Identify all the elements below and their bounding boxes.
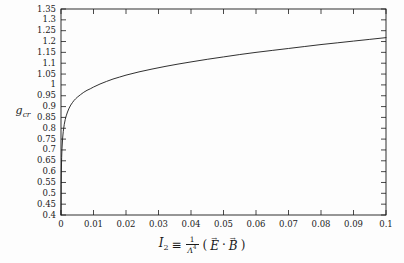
plot-frame	[61, 9, 386, 215]
x-axis-label-close-paren: )	[241, 239, 246, 251]
x-tick-label: 0	[43, 219, 79, 229]
y-tick-label: 1.2	[22, 36, 56, 46]
x-tick-label: 0.06	[238, 219, 274, 229]
fraction-denominator: Λ4	[186, 244, 199, 254]
x-tick-label: 0.04	[173, 219, 209, 229]
y-axis-label: gcr	[6, 104, 40, 119]
e-field-vector: →E	[210, 238, 219, 252]
y-tick-label: 0.45	[22, 199, 56, 209]
y-tick-label: 0.4	[22, 210, 56, 220]
x-axis-label-fraction: 1 Λ4	[186, 236, 199, 254]
x-tick-label: 0.08	[303, 219, 339, 229]
y-tick-label: 0.8	[22, 123, 56, 133]
x-tick-label: 0.09	[336, 219, 372, 229]
chart-figure: 0.40.450.50.550.60.650.70.750.80.850.90.…	[0, 0, 404, 263]
y-tick-label: 0.75	[22, 134, 56, 144]
vector-arrow-e-icon: →	[210, 237, 218, 241]
y-tick-label: 0.5	[22, 188, 56, 198]
x-axis-label-open-paren: (	[203, 239, 208, 251]
y-tick-label: 1.35	[22, 4, 56, 14]
x-tick-label: 0.1	[368, 219, 404, 229]
x-axis-label-symbol: I2	[159, 237, 169, 252]
y-axis-label-subscript: cr	[23, 110, 31, 119]
x-axis-label: I2 ≡ 1 Λ4 ( →E · →B )	[0, 236, 404, 254]
y-tick-label: 0.6	[22, 166, 56, 176]
x-tick-label: 0.05	[206, 219, 242, 229]
vector-arrow-b-icon: →	[229, 237, 237, 241]
x-axis-label-equiv-sign: ≡	[172, 239, 182, 251]
b-field-vector: →B	[229, 238, 238, 252]
y-axis-label-symbol: g	[16, 104, 23, 117]
y-tick-label: 0.55	[22, 177, 56, 187]
x-tick-label: 0.07	[271, 219, 307, 229]
fraction-numerator: 1	[188, 236, 197, 244]
y-tick-label: 0.7	[22, 144, 56, 154]
axis-ticks	[61, 9, 386, 215]
y-tick-label: 1.05	[22, 69, 56, 79]
y-tick-label: 1	[22, 79, 56, 89]
y-tick-label: 0.65	[22, 155, 56, 165]
y-tick-label: 1.3	[22, 14, 56, 24]
y-tick-label: 1.1	[22, 58, 56, 68]
x-tick-label: 0.03	[141, 219, 177, 229]
data-curve	[61, 38, 386, 215]
x-axis-label-dot-operator: ·	[222, 239, 226, 251]
y-tick-label: 1.15	[22, 47, 56, 57]
x-tick-label: 0.01	[76, 219, 112, 229]
y-tick-label: 0.95	[22, 90, 56, 100]
x-tick-label: 0.02	[108, 219, 144, 229]
y-tick-label: 1.25	[22, 25, 56, 35]
